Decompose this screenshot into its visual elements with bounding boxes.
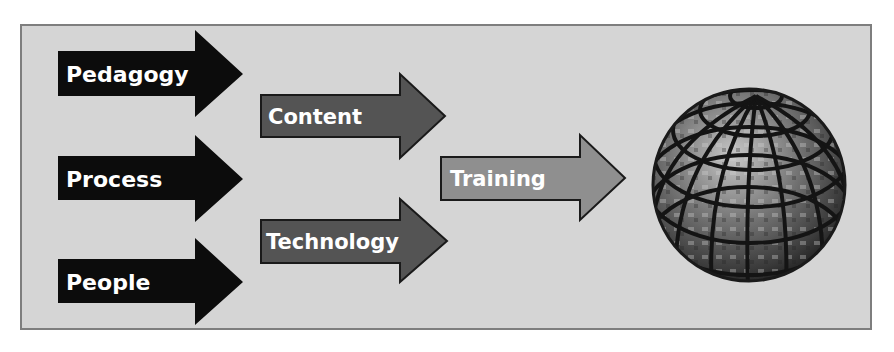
arrow-label-training: Training	[450, 167, 546, 191]
arrow-label-pedagogy: Pedagogy	[66, 62, 189, 87]
globe-icon	[645, 84, 854, 303]
arrow-label-people: People	[66, 270, 150, 295]
arrow-content: Content	[261, 74, 445, 158]
training-flow-diagram: Pedagogy Process People Content Technolo…	[0, 0, 894, 352]
arrow-technology: Technology	[261, 199, 447, 282]
arrow-people: People	[58, 238, 243, 325]
arrow-process: Process	[58, 135, 243, 222]
arrow-training: Training	[441, 135, 625, 220]
arrow-label-content: Content	[268, 105, 362, 129]
arrow-label-process: Process	[66, 167, 162, 192]
arrow-pedagogy: Pedagogy	[58, 30, 243, 117]
arrow-label-technology: Technology	[266, 230, 399, 254]
